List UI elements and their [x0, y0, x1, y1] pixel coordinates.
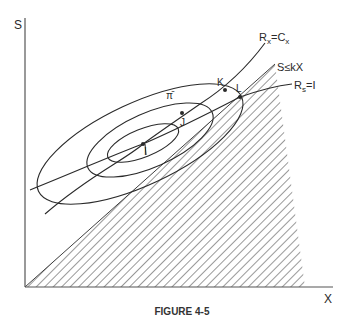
figure-caption: FIGURE 4-5	[154, 306, 209, 317]
point-j-label: J	[180, 117, 185, 128]
y-axis-label: S	[14, 18, 22, 32]
figure-diagram: I J K L π̄ Rx=Cx S≤kX Rs=I S X FIGURE 4-…	[0, 0, 350, 320]
point-k-marker	[223, 88, 227, 92]
constraint-label: S≤kX	[277, 61, 304, 73]
point-j-marker	[180, 111, 184, 115]
point-k-label: K	[217, 77, 224, 88]
x-axis-label: X	[324, 292, 332, 306]
isoprofit-label: π̄	[166, 90, 175, 101]
rs-equals-i-label: Rs=I	[294, 79, 315, 94]
constraint-hatched-region	[25, 64, 305, 287]
point-l-marker	[238, 95, 242, 99]
rx-equals-cx-label: Rx=Cx	[259, 31, 289, 46]
point-i-label: I	[144, 146, 147, 157]
point-l-label: L	[236, 83, 242, 94]
